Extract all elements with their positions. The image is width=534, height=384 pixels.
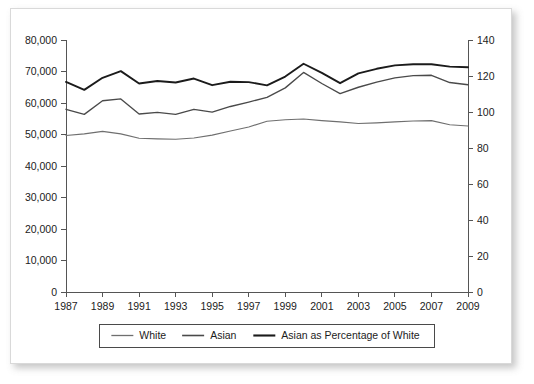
left-axis: 010,00020,00030,00040,00050,00060,00070,… (25, 34, 66, 298)
x-axis-tick-label: 1995 (201, 300, 225, 312)
x-axis-tick-label: 2001 (310, 300, 334, 312)
right-axis-tick-label: 120 (477, 70, 495, 82)
legend-label: Asian (210, 329, 236, 341)
x-axis-tick-label: 1993 (164, 300, 188, 312)
series-lines (66, 64, 468, 139)
legend-label: White (139, 329, 166, 341)
figure-root: 010,00020,00030,00040,00050,00060,00070,… (0, 0, 534, 384)
left-axis-tick-label: 20,000 (25, 223, 57, 235)
left-axis-tick-label: 60,000 (25, 97, 57, 109)
right-axis-tick-label: 80 (477, 142, 489, 154)
right-axis-tick-label: 0 (477, 286, 483, 298)
left-axis-tick-label: 70,000 (25, 65, 57, 77)
x-axis-tick-label: 2009 (456, 300, 480, 312)
x-axis: 1987198919911993199519971999200120032005… (54, 292, 480, 312)
chart-legend: WhiteAsianAsian as Percentage of White (99, 324, 434, 347)
right-axis-tick-label: 140 (477, 34, 495, 46)
left-axis-tick-label: 30,000 (25, 191, 57, 203)
right-axis-tick-label: 40 (477, 214, 489, 226)
series-line-white (66, 119, 468, 139)
line-chart: 010,00020,00030,00040,00050,00060,00070,… (0, 0, 534, 384)
chart-area: 010,00020,00030,00040,00050,00060,00070,… (0, 0, 534, 384)
left-axis-tick-label: 0 (51, 286, 57, 298)
left-axis-tick-label: 40,000 (25, 160, 57, 172)
x-axis-tick-label: 2007 (420, 300, 444, 312)
series-line-asian (66, 72, 468, 114)
left-axis-tick-label: 80,000 (25, 34, 57, 46)
x-axis-tick-label: 1999 (274, 300, 298, 312)
x-axis-tick-label: 1991 (127, 300, 151, 312)
x-axis-tick-label: 1987 (54, 300, 78, 312)
right-axis-tick-label: 60 (477, 178, 489, 190)
right-axis-tick-label: 100 (477, 106, 495, 118)
x-axis-tick-label: 1997 (237, 300, 261, 312)
right-axis-tick-label: 20 (477, 250, 489, 262)
x-axis-tick-label: 1989 (91, 300, 115, 312)
left-axis-tick-label: 10,000 (25, 254, 57, 266)
right-axis: 020406080100120140 (468, 34, 495, 298)
legend-label: Asian as Percentage of White (281, 329, 419, 341)
x-axis-tick-label: 2005 (383, 300, 407, 312)
x-axis-tick-label: 2003 (347, 300, 371, 312)
left-axis-tick-label: 50,000 (25, 128, 57, 140)
